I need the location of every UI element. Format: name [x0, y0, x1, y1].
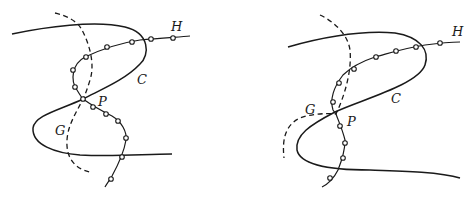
- node: [394, 49, 399, 54]
- figure-left: H C P G: [12, 13, 190, 187]
- label-c: C: [391, 91, 401, 106]
- node: [374, 55, 379, 60]
- node: [149, 37, 154, 42]
- label-g: G: [305, 102, 315, 117]
- node: [91, 105, 96, 110]
- node: [331, 100, 336, 105]
- label-h: H: [170, 19, 183, 34]
- h-nodes: [71, 36, 176, 182]
- curve-c: [12, 24, 172, 156]
- node: [130, 40, 135, 45]
- node: [337, 81, 342, 86]
- label-p: P: [97, 94, 107, 109]
- node: [84, 55, 89, 60]
- node: [171, 36, 176, 41]
- label-h: H: [451, 24, 464, 39]
- node: [120, 155, 125, 160]
- node: [105, 45, 110, 50]
- node: [104, 112, 109, 117]
- h-nodes: [328, 41, 443, 181]
- node: [124, 136, 129, 141]
- diagram-canvas: H C P G H C P G: [0, 0, 475, 200]
- node: [71, 68, 76, 73]
- node: [116, 119, 121, 124]
- node: [438, 41, 443, 46]
- node: [109, 177, 114, 182]
- curve-g: [55, 13, 92, 172]
- node: [73, 85, 78, 90]
- curve-g: [283, 15, 350, 158]
- node: [414, 45, 419, 50]
- node: [328, 176, 333, 181]
- node: [341, 156, 346, 161]
- label-c: C: [137, 72, 147, 87]
- node: [352, 67, 357, 72]
- label-g: G: [55, 123, 65, 138]
- figure-right: H C P G: [283, 15, 464, 187]
- node: [343, 141, 348, 146]
- curve-h: [73, 36, 190, 187]
- label-p: P: [346, 114, 356, 129]
- node-p: [81, 97, 86, 102]
- node: [338, 124, 343, 129]
- curve-h: [322, 42, 460, 187]
